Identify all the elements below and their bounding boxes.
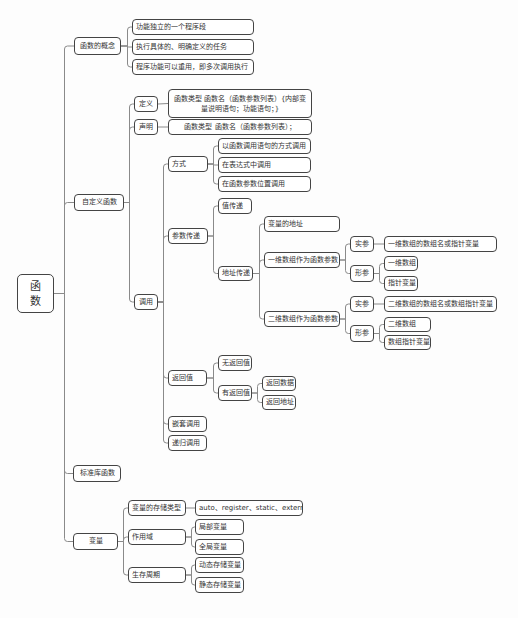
node-arr1-formal-2[interactable]: 指针变量 [384, 276, 418, 291]
node-life-static[interactable]: 静态存储变量 [195, 577, 244, 593]
connector-call-ret [158, 302, 168, 378]
node-custom[interactable]: 自定义函数 [74, 194, 124, 211]
node-arr2[interactable]: 二维数组作为函数参数 [264, 311, 340, 327]
node-addr-var[interactable]: 变量的地址 [264, 216, 340, 232]
node-ret-addr[interactable]: 返回地址 [262, 395, 296, 410]
node-nested[interactable]: 嵌套调用 [168, 416, 207, 432]
node-mode-3[interactable]: 在函数参数位置调用 [218, 176, 311, 192]
connector-arr2-formal-arr2-formal-1 [374, 325, 384, 334]
connector-var-storage [118, 508, 128, 542]
node-define-body[interactable]: 函数类型 函数名（函数参数列表）{内部变量说明语句；功能语句；} [168, 89, 312, 118]
connector-ret-ret-has [207, 378, 218, 393]
connector-byaddr-addr-var [253, 224, 264, 274]
connector-custom-call [124, 203, 134, 303]
root-label-char: 数 [30, 294, 41, 309]
connector-byaddr-arr2 [253, 274, 264, 320]
connector-arr2-arr2-actual [340, 304, 350, 319]
node-arr1-formal[interactable]: 形参 [350, 265, 374, 282]
connector-arr2-arr2-formal [340, 319, 350, 334]
connector-scope-scope-global [186, 537, 195, 547]
node-scope-local[interactable]: 局部变量 [195, 519, 244, 535]
connector-call-nested [158, 302, 168, 424]
connector-call-param [158, 236, 168, 302]
node-ret-has[interactable]: 有返回值 [218, 385, 252, 401]
node-storage[interactable]: 变量的存储类型 [128, 500, 186, 516]
root-node[interactable]: 函数 [17, 274, 54, 313]
connector-param-byval [208, 206, 218, 236]
connector-root-concept [54, 46, 74, 294]
mind-map-canvas: 函数 函数的概念功能独立的一个程序段执行具体的、明确定义的任务程序功能可以重用，… [0, 0, 518, 618]
connector-lifetime-life-dynamic [186, 565, 195, 575]
node-arr1-actual[interactable]: 实参 [350, 236, 374, 252]
node-arr2-actual[interactable]: 实参 [350, 296, 374, 312]
connector-concept-concept-3 [121, 46, 132, 67]
node-arr2-formal-1[interactable]: 二维数组 [384, 317, 431, 332]
node-param[interactable]: 参数传递 [168, 228, 208, 244]
root-label-char: 函 [30, 279, 41, 294]
node-define[interactable]: 定义 [134, 96, 158, 112]
connector-arr2-formal-arr2-formal-2 [374, 334, 384, 343]
connector-var-scope [118, 537, 128, 542]
connector-concept-concept-1 [121, 27, 132, 46]
node-stdlib[interactable]: 标准库函数 [73, 465, 121, 482]
connector-root-var [54, 294, 73, 542]
node-mode-2[interactable]: 在表达式中调用 [218, 157, 311, 173]
connector-root-stdlib [54, 294, 73, 474]
connector-scope-scope-local [186, 527, 195, 537]
connector-root-custom [54, 203, 74, 294]
node-mode-1[interactable]: 以函数调用语句的方式调用 [218, 138, 311, 154]
node-arr1-actual-body[interactable]: 一维数组的数组名或指针变量 [384, 236, 497, 252]
node-ret[interactable]: 返回值 [168, 370, 207, 386]
node-concept[interactable]: 函数的概念 [74, 37, 121, 55]
node-concept-3[interactable]: 程序功能可以重用，即多次调用执行 [132, 59, 254, 75]
node-call[interactable]: 调用 [134, 294, 158, 310]
node-concept-2[interactable]: 执行具体的、明确定义的任务 [132, 39, 254, 55]
node-arr2-formal-2[interactable]: 数组指针变量 [384, 335, 431, 350]
connector-arr1-formal-arr1-formal-1 [374, 264, 384, 274]
node-scope-global[interactable]: 全局变量 [195, 539, 244, 555]
node-arr2-formal[interactable]: 形参 [350, 325, 374, 342]
node-var[interactable]: 变量 [73, 533, 118, 550]
connector-var-lifetime [118, 542, 128, 576]
node-scope[interactable]: 作用域 [128, 529, 186, 545]
node-recursive[interactable]: 递归调用 [168, 435, 207, 451]
node-arr1-formal-1[interactable]: 一维数组 [384, 256, 418, 271]
node-arr1[interactable]: 一维数组作为函数参数 [264, 252, 340, 268]
connector-call-recursive [158, 302, 168, 443]
node-concept-1[interactable]: 功能独立的一个程序段 [132, 19, 254, 35]
connector-custom-define [124, 104, 134, 203]
connector-arr1-arr1-formal [340, 260, 350, 274]
node-storage-body[interactable]: auto、register、static、extern [195, 500, 303, 516]
connector-define-define-body [158, 104, 168, 105]
node-declare-body[interactable]: 函数类型 函数名（函数参数列表）； [168, 119, 312, 135]
connector-ret-has-ret-addr [252, 393, 262, 403]
node-byval[interactable]: 值传递 [218, 198, 252, 214]
connector-custom-declare [124, 127, 134, 203]
node-ret-none[interactable]: 无返回值 [218, 355, 252, 371]
connector-mode-mode-1 [208, 146, 218, 164]
connector-ret-ret-none [207, 363, 218, 378]
connector-concept-concept-2 [121, 46, 132, 47]
connector-arr1-arr1-actual [340, 244, 350, 260]
connector-byaddr-arr1 [253, 260, 264, 274]
connector-mode-mode-2 [208, 164, 218, 165]
connector-call-mode [158, 164, 168, 302]
node-life-dynamic[interactable]: 动态存储变量 [195, 557, 244, 573]
connector-ret-has-ret-data [252, 384, 262, 394]
node-declare[interactable]: 声明 [134, 119, 158, 135]
node-arr2-actual-body[interactable]: 二维数组的数组名或数组指针变量 [384, 296, 497, 312]
node-ret-data[interactable]: 返回数据 [262, 376, 296, 391]
connector-mode-mode-3 [208, 164, 218, 184]
node-byaddr[interactable]: 地址传递 [218, 266, 253, 281]
connector-param-byaddr [208, 236, 218, 274]
node-mode[interactable]: 方式 [168, 156, 208, 172]
connector-arr1-formal-arr1-formal-2 [374, 274, 384, 284]
connector-lifetime-life-static [186, 575, 195, 585]
node-lifetime[interactable]: 生存周期 [128, 567, 186, 583]
